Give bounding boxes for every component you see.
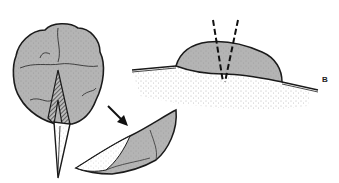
arrow-icon bbox=[108, 106, 128, 126]
panel-label: B bbox=[322, 75, 328, 84]
excised-wedge-specimen bbox=[76, 110, 176, 174]
illustration-canvas bbox=[0, 0, 339, 183]
blade-segment bbox=[54, 122, 70, 178]
